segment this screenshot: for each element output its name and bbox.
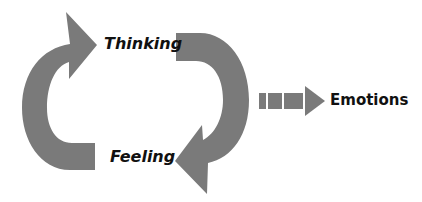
dashed-arrow-icon — [259, 86, 325, 116]
node-emotions: Emotions — [330, 91, 408, 109]
node-feeling: Feeling — [110, 147, 175, 166]
node-thinking: Thinking — [104, 34, 182, 53]
left-curved-arrow-icon — [22, 12, 97, 170]
right-curved-arrow-icon — [175, 33, 249, 194]
